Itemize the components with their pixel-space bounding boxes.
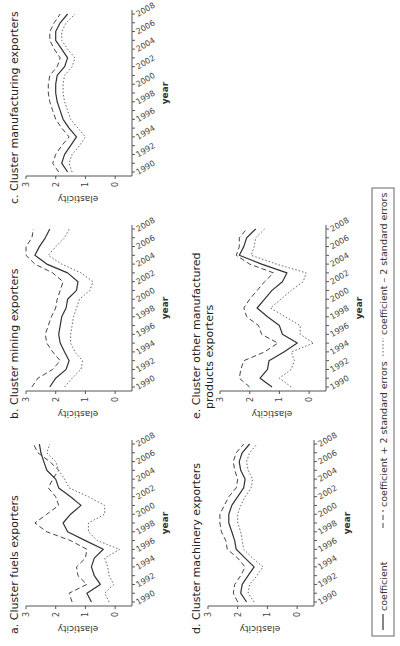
- x-tick-label: 2004: [135, 466, 157, 484]
- x-tick-label: 2006: [135, 233, 157, 251]
- x-tick-label: 1992: [135, 356, 157, 374]
- lower-band-line: [251, 229, 313, 387]
- y-tick-label: 1: [263, 612, 272, 617]
- x-tick-label: 1990: [135, 159, 157, 177]
- lower-band-line: [48, 229, 93, 387]
- x-tick-label: 2000: [135, 501, 157, 519]
- panel-title-line2: products exporters: [203, 305, 216, 409]
- x-tick-label: 2004: [135, 251, 157, 269]
- x-tick-label: 2008: [135, 216, 157, 234]
- panel-b: b. Cluster mining exporters0123elasticit…: [8, 216, 170, 419]
- coefficient-line: [56, 14, 77, 172]
- x-tick-label: 1998: [135, 519, 157, 537]
- panel-c: c. Cluster manufacturing exporters0123el…: [8, 1, 170, 204]
- x-tick-label: 2004: [135, 36, 157, 54]
- y-axis-label: elasticity: [239, 624, 280, 634]
- x-tick-label: 2008: [317, 431, 339, 449]
- y-axis-label: elasticity: [57, 409, 98, 419]
- x-tick-label: 1996: [317, 536, 339, 554]
- x-tick-label: 1998: [135, 89, 157, 107]
- x-tick-label: 2006: [317, 448, 339, 466]
- x-axis-label: year: [354, 296, 364, 319]
- rotated-figure: a. Cluster fuels exporters0123elasticity…: [0, 0, 400, 646]
- legend-label-lower: coefficient – 2 standard errors: [378, 192, 389, 335]
- x-axis-label: year: [160, 511, 170, 534]
- x-tick-label: 1990: [135, 374, 157, 392]
- x-tick-label: 2006: [329, 233, 351, 251]
- legend-label-coefficient: coefficient: [378, 561, 389, 611]
- x-tick-label: 1992: [135, 571, 157, 589]
- y-tick-label: 0: [111, 612, 120, 617]
- y-axis-label: elasticity: [251, 409, 292, 419]
- x-tick-label: 2002: [135, 268, 157, 286]
- panel-title: e. Cluster other manufactured: [190, 253, 203, 419]
- y-tick-label: 3: [22, 612, 31, 617]
- y-tick-label: 2: [234, 612, 243, 617]
- y-tick-label: 0: [293, 612, 302, 617]
- y-tick-label: 3: [22, 397, 31, 402]
- upper-band-line: [220, 444, 245, 602]
- y-tick-label: 0: [111, 397, 120, 402]
- figure-canvas: a. Cluster fuels exporters0123elasticity…: [0, 0, 400, 646]
- x-tick-label: 2000: [135, 286, 157, 304]
- x-tick-label: 1992: [329, 356, 351, 374]
- x-tick-label: 1994: [317, 554, 339, 572]
- panel-title: c. Cluster manufacturing exporters: [8, 11, 21, 204]
- x-tick-label: 2002: [135, 483, 157, 501]
- y-tick-label: 2: [52, 182, 61, 187]
- y-tick-label: 1: [81, 182, 90, 187]
- x-tick-label: 2000: [135, 71, 157, 89]
- x-tick-label: 2006: [135, 18, 157, 36]
- x-tick-label: 1998: [329, 304, 351, 322]
- y-tick-label: 2: [52, 397, 61, 402]
- y-axis-label: elasticity: [57, 624, 98, 634]
- y-tick-label: 2: [52, 612, 61, 617]
- x-tick-label: 1996: [329, 321, 351, 339]
- panel-title: d. Cluster machinery exporters: [190, 463, 203, 634]
- coefficient-line: [39, 444, 103, 602]
- x-tick-label: 1992: [135, 141, 157, 159]
- y-tick-label: 3: [216, 397, 225, 402]
- lower-band-line: [238, 444, 263, 602]
- x-tick-label: 1990: [135, 589, 157, 607]
- y-tick-label: 1: [275, 397, 284, 402]
- panel-e: e. Cluster other manufacturedproducts ex…: [190, 216, 364, 419]
- y-tick-label: 2: [246, 397, 255, 402]
- legend: coefficient coefficient + 2 standard err…: [372, 188, 394, 636]
- lower-band-line: [62, 14, 86, 172]
- x-tick-label: 2008: [329, 216, 351, 234]
- y-tick-label: 0: [305, 397, 314, 402]
- x-tick-label: 2008: [135, 431, 157, 449]
- legend-label-upper: coefficient + 2 standard errors: [378, 361, 389, 507]
- x-tick-label: 2004: [329, 251, 351, 269]
- upper-band-line: [33, 444, 87, 602]
- x-axis-label: year: [342, 511, 352, 534]
- x-tick-label: 1990: [317, 589, 339, 607]
- y-tick-label: 1: [81, 612, 90, 617]
- x-tick-label: 1990: [329, 374, 351, 392]
- panel-a: a. Cluster fuels exporters0123elasticity…: [8, 431, 170, 634]
- y-tick-label: 3: [204, 612, 213, 617]
- x-tick-label: 1998: [317, 519, 339, 537]
- x-axis-label: year: [160, 81, 170, 104]
- y-tick-label: 3: [22, 182, 31, 187]
- y-tick-label: 0: [111, 182, 120, 187]
- x-tick-label: 1996: [135, 106, 157, 124]
- x-axis-label: year: [160, 296, 170, 319]
- x-tick-label: 1994: [135, 554, 157, 572]
- panel-title: b. Cluster mining exporters: [8, 268, 21, 419]
- x-tick-label: 2006: [135, 448, 157, 466]
- panel-title: a. Cluster fuels exporters: [8, 495, 21, 634]
- x-tick-label: 2004: [317, 466, 339, 484]
- x-tick-label: 1994: [329, 339, 351, 357]
- x-tick-label: 2002: [329, 268, 351, 286]
- x-tick-label: 1998: [135, 304, 157, 322]
- x-tick-label: 2000: [317, 501, 339, 519]
- y-axis-label: elasticity: [57, 194, 98, 204]
- coefficient-line: [239, 229, 297, 387]
- x-tick-label: 1996: [135, 536, 157, 554]
- coefficient-line: [35, 229, 78, 387]
- x-tick-label: 2002: [317, 483, 339, 501]
- x-tick-label: 1994: [135, 124, 157, 142]
- lower-band-line: [47, 444, 120, 602]
